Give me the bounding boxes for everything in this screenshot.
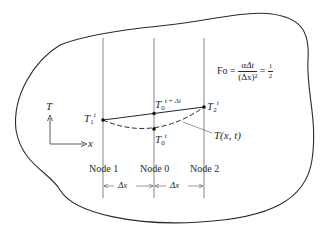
t0-next-sup: t + Δt xyxy=(165,97,181,105)
formula-lhs: Fo xyxy=(217,65,228,76)
formula-fraction: αΔt (Δx)² xyxy=(238,61,257,82)
node-0-label: Node 0 xyxy=(140,164,169,174)
label-t1: T1t xyxy=(84,113,96,124)
t0-sup: t xyxy=(165,132,167,140)
dx-left-text: Δx xyxy=(118,180,127,190)
x-axis-label: x xyxy=(88,138,93,149)
curve-leader-line xyxy=(183,122,212,133)
t2-sup: t xyxy=(217,99,219,107)
point-t2 xyxy=(202,105,206,109)
finite-difference-diagram: Fo = αΔt (Δx)² = 1 2 T x T1t T2t T0t + Δ… xyxy=(0,0,329,233)
node-1-label: Node 1 xyxy=(89,164,118,174)
t1-sup: t xyxy=(94,111,96,119)
dx-label-right: Δx xyxy=(170,181,179,190)
formula-equals: = xyxy=(230,65,236,76)
formula-denominator: (Δx)² xyxy=(238,72,257,82)
dx-label-left: Δx xyxy=(118,181,127,190)
label-t2: T2t xyxy=(207,101,219,112)
formula-half: 1 2 xyxy=(268,63,274,80)
t-axis-label: T xyxy=(46,101,52,112)
diagram-graphics xyxy=(0,0,329,233)
t2-sub: 2 xyxy=(213,106,217,114)
point-t0-next xyxy=(152,112,156,116)
half-denominator: 2 xyxy=(268,72,274,80)
half-numerator: 1 xyxy=(268,63,274,72)
formula-numerator: αΔt xyxy=(238,61,257,72)
curve-label: T(x, t) xyxy=(214,130,241,141)
point-t0 xyxy=(152,127,156,131)
label-t0-next: T0t + Δt xyxy=(155,99,181,110)
t0-next-sub: 0 xyxy=(161,104,165,112)
label-t0: T0t xyxy=(155,134,167,145)
region-outline xyxy=(16,13,314,223)
dx-right-text: Δx xyxy=(170,180,179,190)
t1-sub: 1 xyxy=(90,118,94,126)
formula-equals-2: = xyxy=(260,65,266,76)
point-t1 xyxy=(101,118,105,122)
fourier-number-formula: Fo = αΔt (Δx)² = 1 2 xyxy=(217,61,273,82)
t0-sub: 0 xyxy=(161,139,165,147)
node-2-label: Node 2 xyxy=(190,164,219,174)
